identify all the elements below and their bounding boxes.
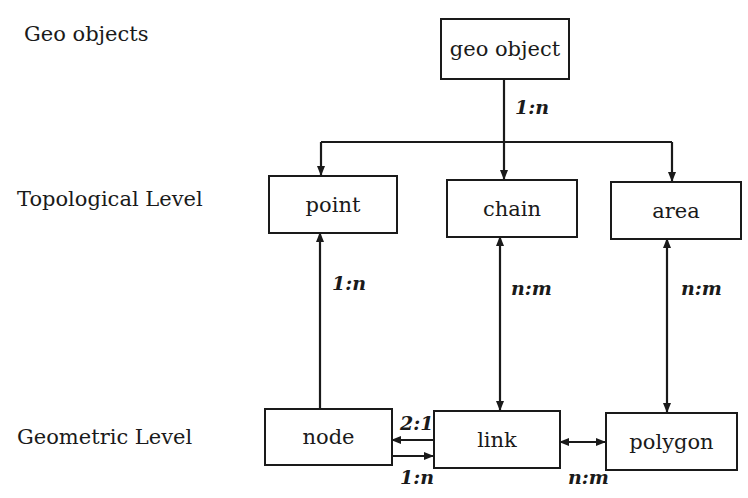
entity-label: link xyxy=(477,428,517,452)
entity-label: geo object xyxy=(450,37,560,61)
entity-polygon: polygon xyxy=(605,412,738,471)
level-label-geometric: Geometric Level xyxy=(17,425,192,449)
entity-point: point xyxy=(268,175,398,234)
entity-label: point xyxy=(306,193,361,217)
entity-label: chain xyxy=(483,197,541,221)
level-label-topological: Topological Level xyxy=(17,187,203,211)
entity-area: area xyxy=(610,181,742,240)
relation-node-link: 1:n xyxy=(400,466,434,488)
entity-chain: chain xyxy=(446,179,578,238)
entity-label: node xyxy=(302,425,354,449)
relation-link-node: 2:1 xyxy=(400,412,433,434)
level-label-geo-objects: Geo objects xyxy=(24,22,149,46)
relation-chain-link: n:m xyxy=(511,277,552,299)
relation-geo-object-topology: 1:n xyxy=(515,96,549,118)
relation-area-polygon: n:m xyxy=(681,277,722,299)
entity-label: area xyxy=(652,199,700,223)
entity-node: node xyxy=(264,408,393,466)
relation-link-polygon: n:m xyxy=(568,466,609,488)
relation-node-point: 1:n xyxy=(332,272,366,294)
entity-geo-object: geo object xyxy=(440,18,570,80)
entity-label: polygon xyxy=(629,430,713,454)
entity-link: link xyxy=(433,410,561,469)
